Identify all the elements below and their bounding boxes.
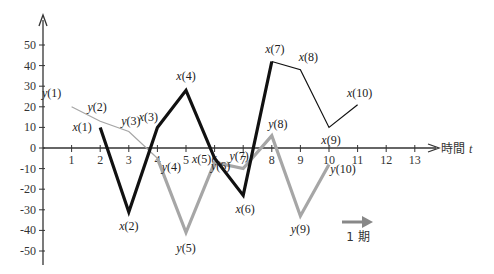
point-label-x-10: x(10) (346, 86, 372, 100)
point-label-x-7: x(7) (264, 42, 284, 56)
y-tick-label: 10 (24, 120, 36, 134)
period-arrow-icon (362, 216, 373, 228)
point-label-y-7: y(7) (229, 149, 249, 163)
point-label-index: (4) (182, 69, 196, 83)
point-label-index: (1) (78, 120, 92, 134)
point-label-x-9: x(9) (320, 133, 340, 147)
y-tick-label: -10 (20, 162, 36, 176)
x-tick-label: 12 (380, 153, 392, 167)
x-tick-label: 3 (126, 153, 132, 167)
point-label-index: (7) (270, 42, 284, 56)
period-label: 1 期 (346, 230, 369, 244)
y-tick-label: -40 (20, 223, 36, 237)
point-label-y-2: y(2) (87, 100, 107, 114)
point-label-index: (6) (241, 202, 255, 216)
point-label-x-2: x(2) (118, 219, 138, 233)
y-tick-label: -50 (20, 244, 36, 258)
x-tick-label: 1 (69, 153, 75, 167)
point-label-index: (1) (47, 86, 61, 100)
y-tick-label: 0 (30, 141, 36, 155)
point-label-y-4: y(4) (161, 160, 181, 174)
x-tick-label: 9 (297, 153, 303, 167)
point-label-index: (4) (167, 160, 181, 174)
y-tick-label: -20 (20, 182, 36, 196)
y-tick-label: 30 (24, 79, 36, 93)
x-tick-label: 8 (269, 153, 275, 167)
y-tick-label: -30 (20, 203, 36, 217)
x-axis-title-var: t (469, 142, 473, 156)
point-label-index: (2) (124, 219, 138, 233)
point-label-x-5: x(5) (191, 152, 211, 166)
point-label-y-9: y(9) (290, 222, 310, 236)
x-tick-label: 13 (409, 153, 421, 167)
y-tick-label: 40 (24, 59, 36, 73)
point-label-index: (10) (336, 162, 356, 176)
point-label-index: (9) (296, 222, 310, 236)
point-label-y-8: y(8) (267, 117, 287, 131)
chart: 時間t 50403020100-10-20-30-40-501234567891… (0, 0, 494, 274)
y-tick-label: 20 (24, 100, 36, 114)
x-tick-label: 2 (97, 153, 103, 167)
x-axis-title-text: 時間 (441, 142, 465, 156)
point-label-index: (10) (352, 86, 372, 100)
point-label-index: (5) (182, 241, 196, 255)
point-label-y-10: y(10) (329, 162, 355, 176)
x-tick-label: 5 (183, 153, 189, 167)
period-annotation: 1 期 (342, 216, 373, 244)
point-label-index: (2) (93, 100, 107, 114)
point-label-y-3: y(3) (120, 114, 140, 128)
point-label-x-6: x(6) (235, 202, 255, 216)
point-label-y-1: y(1) (41, 86, 61, 100)
point-labels: x(1)x(2)x(3)x(4)x(5)x(6)x(7)x(8)x(9)x(10… (41, 42, 372, 255)
point-label-x-8: x(8) (298, 50, 318, 64)
point-label-index: (3) (126, 114, 140, 128)
series-x-line (100, 62, 272, 212)
point-label-x-3: x(3) (138, 110, 158, 124)
point-label-x-4: x(4) (175, 69, 195, 83)
point-label-index: (6) (216, 159, 230, 173)
point-label-index: (3) (144, 110, 158, 124)
point-label-index: (5) (197, 152, 211, 166)
point-label-index: (8) (273, 117, 287, 131)
point-label-x-1: x(1) (72, 120, 92, 134)
point-label-index: (7) (235, 149, 249, 163)
y-tick-label: 50 (24, 38, 36, 52)
point-label-index: (9) (327, 133, 341, 147)
point-label-y-6: y(6) (210, 159, 230, 173)
point-label-y-5: y(5) (175, 241, 195, 255)
point-label-index: (8) (304, 50, 318, 64)
x-axis-title: 時間t (441, 142, 473, 156)
